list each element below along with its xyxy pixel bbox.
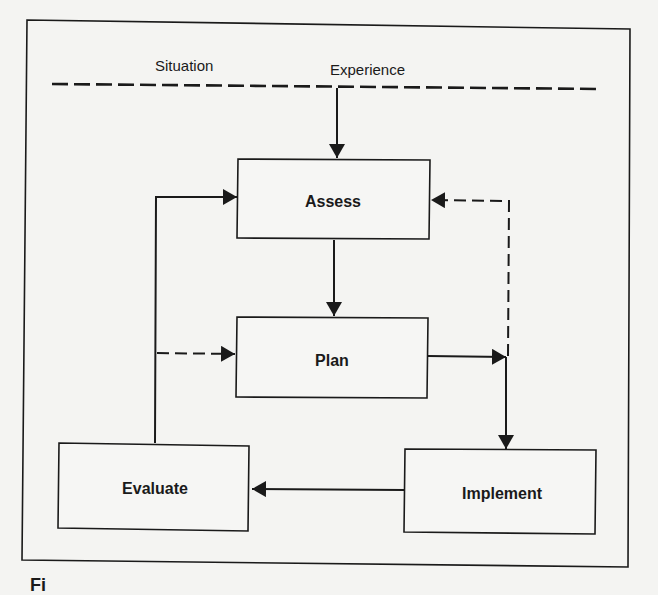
- situation-label: Situation: [155, 57, 213, 74]
- node-evaluate: Evaluate: [58, 443, 249, 531]
- node-plan: Plan: [236, 317, 428, 398]
- experience-label: Experience: [330, 61, 405, 78]
- situation-experience-line: [52, 84, 600, 89]
- node-evaluate-label: Evaluate: [122, 480, 188, 497]
- figure-caption-fragment: Fi: [30, 575, 46, 595]
- arrow-plan-to-junction: [428, 356, 506, 357]
- node-assess: Assess: [237, 159, 430, 239]
- arrow-implement-to-evaluate: [252, 489, 404, 490]
- dashed-evaluate-to-plan: [157, 353, 235, 354]
- dashed-feedback-to-assess: [431, 200, 509, 356]
- node-implement-label: Implement: [462, 485, 543, 502]
- node-assess-label: Assess: [305, 193, 361, 210]
- node-implement: Implement: [404, 449, 596, 534]
- node-plan-label: Plan: [315, 352, 349, 369]
- arrow-evaluate-to-assess: [155, 197, 237, 443]
